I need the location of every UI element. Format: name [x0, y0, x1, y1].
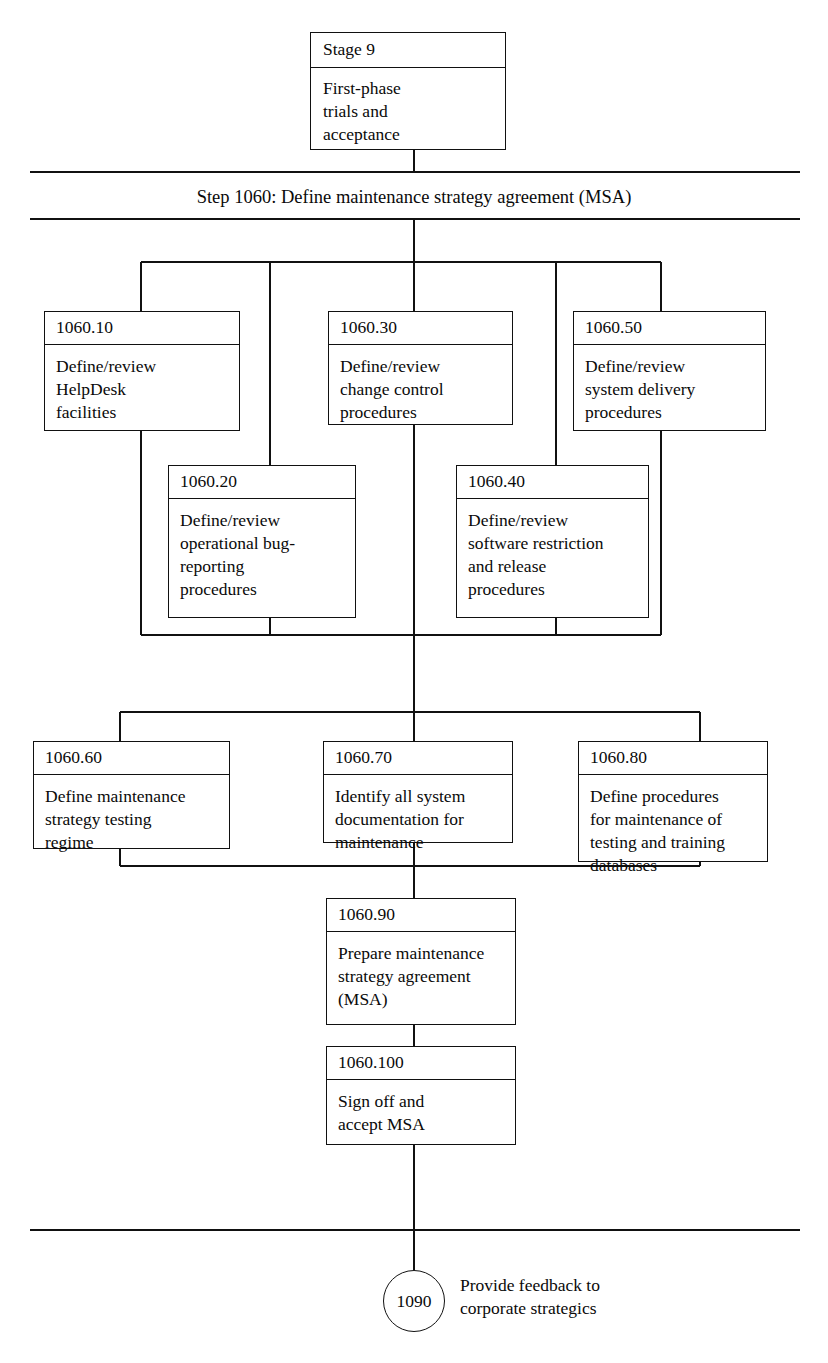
node-text: Define maintenance strategy testing regi… [34, 775, 229, 861]
node-1060-40[interactable]: 1060.40 Define/review software restricti… [456, 465, 649, 618]
node-text: Define/review system delivery procedures [574, 345, 765, 431]
node-1060-20[interactable]: 1060.20 Define/review operational bug- r… [168, 465, 356, 618]
terminator-node-1090[interactable]: 1090 [383, 1270, 445, 1332]
node-id: 1060.30 [329, 312, 512, 345]
node-text: Identify all system documentation for ma… [324, 775, 512, 861]
node-1060-100[interactable]: 1060.100 Sign off and accept MSA [326, 1046, 516, 1145]
node-1060-90[interactable]: 1060.90 Prepare maintenance strategy agr… [326, 898, 516, 1025]
node-text: Define procedures for maintenance of tes… [579, 775, 767, 884]
node-text: Sign off and accept MSA [327, 1080, 515, 1143]
flowchart-canvas: Stage 9 First-phase trials and acceptanc… [0, 0, 828, 1363]
node-text: Define/review operational bug- reporting… [169, 499, 355, 608]
node-id: 1060.60 [34, 742, 229, 775]
node-text: Define/review software restriction and r… [457, 499, 648, 608]
node-id: 1060.20 [169, 466, 355, 499]
node-1060-30[interactable]: 1060.30 Define/review change control pro… [328, 311, 513, 425]
node-id: 1060.10 [45, 312, 239, 345]
node-1060-60[interactable]: 1060.60 Define maintenance strategy test… [33, 741, 230, 849]
stage-text: First-phase trials and acceptance [311, 68, 505, 153]
stage-id: Stage 9 [311, 33, 505, 68]
node-id: 1060.100 [327, 1047, 515, 1080]
stage-box[interactable]: Stage 9 First-phase trials and acceptanc… [310, 32, 506, 150]
node-id: 1060.90 [327, 899, 515, 932]
node-id: 1060.40 [457, 466, 648, 499]
node-1060-50[interactable]: 1060.50 Define/review system delivery pr… [573, 311, 766, 431]
node-id: 1060.70 [324, 742, 512, 775]
node-text: Define/review change control procedures [329, 345, 512, 431]
terminator-label: Provide feedback to corporate strategics [460, 1274, 600, 1321]
band-title: Step 1060: Define maintenance strategy a… [0, 188, 828, 207]
terminator-id: 1090 [397, 1291, 432, 1312]
node-1060-10[interactable]: 1060.10 Define/review HelpDesk facilitie… [44, 311, 240, 431]
node-1060-80[interactable]: 1060.80 Define procedures for maintenanc… [578, 741, 768, 862]
node-text: Prepare maintenance strategy agreement (… [327, 932, 515, 1018]
node-text: Define/review HelpDesk facilities [45, 345, 239, 431]
node-1060-70[interactable]: 1060.70 Identify all system documentatio… [323, 741, 513, 843]
node-id: 1060.80 [579, 742, 767, 775]
node-id: 1060.50 [574, 312, 765, 345]
